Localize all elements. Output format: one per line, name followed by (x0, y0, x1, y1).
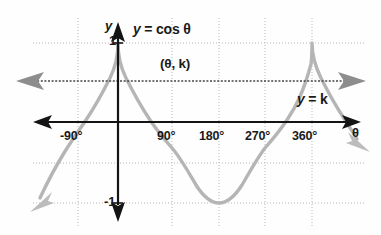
cosine-equation-y: y (133, 21, 141, 37)
cosine-equation-theta: θ (183, 21, 190, 37)
x-axis-label: θ (352, 126, 359, 139)
x-tick-label-90: 90° (157, 130, 175, 143)
x-tick-label-360: 360° (292, 130, 317, 143)
k-line-group (16, 72, 366, 90)
k-line-equation-label: y = k (297, 92, 328, 106)
cosine-equation-eq: = cos (141, 21, 184, 37)
k-line-arrow-left (16, 72, 44, 90)
k-equation-y: y (297, 91, 305, 107)
cosine-graph-figure: y θ y = cos θ (θ, k) y = k 1 -1 -90° 90°… (0, 0, 381, 235)
x-tick-label--90: -90° (60, 130, 82, 143)
x-tick-label-270: 270° (245, 130, 270, 143)
y-axis-label: y (105, 19, 112, 32)
cosine-equation-label: y = cos θ (133, 22, 191, 36)
intersection-point-label: (θ, k) (160, 57, 190, 71)
k-line-arrow-right (338, 72, 366, 90)
k-equation-rest: = k (305, 91, 328, 107)
cosine-curve-group (30, 43, 370, 212)
y-tick-label--1: -1 (104, 195, 115, 208)
y-tick-label-1: 1 (109, 34, 116, 47)
x-tick-label-180: 180° (199, 130, 224, 143)
